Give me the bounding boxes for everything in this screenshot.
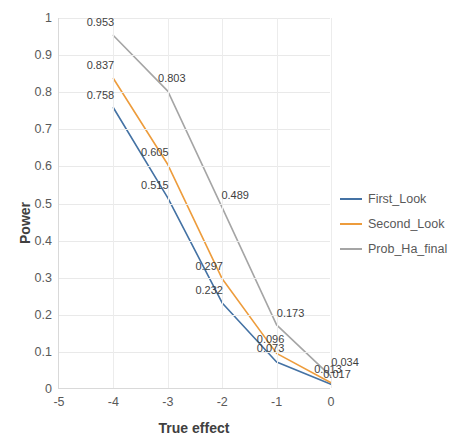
gridline-horizontal	[59, 315, 330, 316]
gridline-vertical	[222, 18, 223, 388]
gridline-vertical	[113, 18, 114, 388]
plot-area: 00.10.20.30.40.50.60.70.80.91-5-4-3-2-10…	[58, 18, 330, 389]
gridline-horizontal	[59, 55, 330, 56]
gridline-horizontal	[59, 278, 330, 279]
legend-item-label: Prob_Ha_final	[368, 242, 447, 256]
gridline-vertical	[277, 18, 278, 388]
x-axis-tick-label: -5	[53, 395, 64, 409]
gridline-vertical	[168, 18, 169, 388]
gridline-horizontal	[59, 129, 330, 130]
legend-item[interactable]: Second_Look	[340, 217, 447, 231]
x-axis-tick-label: -1	[271, 395, 282, 409]
y-axis-tick-label: 0.9	[35, 48, 52, 62]
data-label: 0.034	[331, 356, 359, 368]
y-axis-tick-label: 0.7	[35, 122, 52, 136]
legend-item-label: First_Look	[368, 192, 426, 206]
legend-item[interactable]: Prob_Ha_final	[340, 242, 447, 256]
y-axis-tick-label: 0.1	[35, 345, 52, 359]
legend-item[interactable]: First_Look	[340, 192, 447, 206]
y-axis-tick-label: 0.3	[35, 271, 52, 285]
y-axis-tick-label: 0.8	[35, 85, 52, 99]
legend-line-swatch-icon	[340, 223, 362, 225]
power-vs-true-effect-line-chart: Power 00.10.20.30.40.50.60.70.80.91-5-4-…	[0, 0, 459, 446]
y-axis-tick-label: 0.6	[35, 159, 52, 173]
gridline-horizontal	[59, 204, 330, 205]
x-axis-tick-label: -3	[162, 395, 173, 409]
gridline-horizontal	[59, 241, 330, 242]
x-axis-tick-label: -2	[217, 395, 228, 409]
gridline-horizontal	[59, 166, 330, 167]
x-axis-tick-label: -4	[108, 395, 119, 409]
gridline-vertical	[331, 18, 332, 388]
y-axis-tick-label: 1	[45, 11, 52, 25]
x-axis-title: True effect	[58, 420, 330, 436]
y-axis-tick-label: 0	[45, 382, 52, 396]
legend-line-swatch-icon	[340, 248, 362, 250]
chart-legend: First_LookSecond_LookProb_Ha_final	[340, 192, 447, 256]
gridline-horizontal	[59, 18, 330, 19]
gridline-horizontal	[59, 92, 330, 93]
y-axis-title: Power	[17, 202, 33, 244]
legend-item-label: Second_Look	[368, 217, 444, 231]
y-axis-tick-label: 0.5	[35, 197, 52, 211]
legend-line-swatch-icon	[340, 198, 362, 200]
y-axis-tick-label: 0.2	[35, 308, 52, 322]
x-axis-tick-label: 0	[328, 395, 335, 409]
gridline-horizontal	[59, 352, 330, 353]
y-axis-tick-label: 0.4	[35, 234, 52, 248]
